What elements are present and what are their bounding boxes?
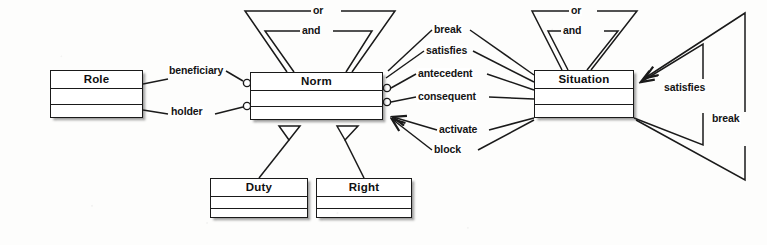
uml-class-duty[interactable]: Duty — [210, 178, 308, 218]
edge-label-situation-satisfies: satisfies — [663, 82, 706, 93]
edge-label-situation-or: or — [570, 5, 582, 16]
edge-label-antecedent: antecedent — [417, 68, 473, 79]
uml-operations-right — [317, 209, 411, 218]
edge-label-situation-break: break — [711, 113, 741, 124]
self-association-situation-satisfies — [634, 44, 703, 145]
uml-class-name-duty: Duty — [211, 179, 307, 197]
uml-operations-role — [51, 105, 142, 118]
edge-label-situation-and: and — [562, 25, 582, 36]
self-association-situation-or — [532, 11, 637, 70]
uml-attributes-situation — [535, 89, 633, 105]
uml-attributes-role — [51, 89, 142, 105]
uml-operations-norm — [251, 107, 382, 120]
uml-class-norm[interactable]: Norm — [250, 72, 383, 120]
edge-label-consequent: consequent — [417, 91, 477, 102]
uml-class-situation[interactable]: Situation — [534, 70, 634, 118]
edge-label-activate: activate — [438, 124, 478, 135]
uml-class-diagram: Role Norm Situation Duty Right beneficia… — [0, 0, 767, 245]
edge-label-break: break — [433, 24, 463, 35]
self-association-norm-or — [245, 11, 395, 72]
edge-label-block: block — [433, 144, 462, 155]
edge-label-beneficiary: beneficiary — [168, 65, 224, 76]
generalization-right-norm — [337, 126, 364, 178]
uml-class-right[interactable]: Right — [316, 178, 412, 218]
uml-operations-situation — [535, 105, 633, 118]
uml-class-role[interactable]: Role — [50, 70, 143, 118]
uml-attributes-duty — [211, 197, 307, 209]
uml-class-name-role: Role — [51, 71, 142, 89]
edge-label-holder: holder — [170, 106, 204, 117]
edge-label-satisfies: satisfies — [425, 45, 468, 56]
uml-class-name-situation: Situation — [535, 71, 633, 89]
edge-label-norm-or: or — [312, 5, 324, 16]
uml-operations-duty — [211, 209, 307, 218]
uml-attributes-norm — [251, 91, 382, 107]
uml-class-name-norm: Norm — [251, 73, 382, 91]
uml-attributes-right — [317, 197, 411, 209]
edge-label-norm-and: and — [301, 25, 321, 36]
generalization-duty-norm — [259, 126, 300, 178]
uml-class-name-right: Right — [317, 179, 411, 197]
self-association-situation-break — [636, 13, 745, 180]
